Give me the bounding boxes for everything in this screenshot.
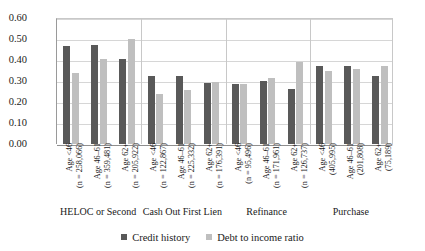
y-axis-tick-2: 0.40 <box>0 55 27 65</box>
x-axis-category-labels: Age <46(n = 258,066)Age 46–61(n = 359,48… <box>56 145 393 205</box>
x-label-count-5: (n = 176,391) <box>215 143 226 203</box>
denial-reasons-bar-chart: Percentage Denied 0.600.500.400.300.200.… <box>0 0 425 251</box>
x-label-count-8: (n = 126,737) <box>300 143 311 203</box>
bar-0-10 <box>344 66 351 144</box>
x-label-count-9: (405,995) <box>328 143 339 203</box>
x-label-age-7: Age 46–61 <box>262 143 273 203</box>
x-axis-group-labels: HELOC or SecondCash Out First LienRefina… <box>56 206 393 222</box>
legend-swatch-icon-0 <box>121 234 127 240</box>
bar-1-9 <box>325 71 332 145</box>
legend-item-1[interactable]: Debt to income ratio <box>206 232 304 243</box>
x-label-count-2: (n = 205,922) <box>131 143 142 203</box>
y-axis-tick-5: 0.10 <box>0 118 27 128</box>
legend-swatch-icon-1 <box>206 234 212 240</box>
x-label-age-6: Age <46 <box>234 143 245 203</box>
bar-0-4 <box>176 76 183 144</box>
group-label-0: HELOC or Second <box>56 206 140 217</box>
x-label-count-0: (n = 258,066) <box>75 143 86 203</box>
bar-0-9 <box>316 66 323 144</box>
bar-series-container <box>57 19 392 144</box>
bar-0-1 <box>91 45 98 144</box>
bar-1-7 <box>268 78 275 144</box>
legend-label-1: Debt to income ratio <box>217 232 304 243</box>
x-label-count-10: (201,808) <box>356 143 367 203</box>
group-label-3: Purchase <box>309 206 393 217</box>
x-label-count-3: (n = 122,867) <box>159 143 170 203</box>
plot-area <box>56 18 393 144</box>
x-label-count-4: (n = 225,332) <box>187 143 198 203</box>
legend-label-0: Credit history <box>132 232 190 243</box>
bar-0-11 <box>372 76 379 144</box>
y-axis-tick-4: 0.20 <box>0 97 27 107</box>
bar-1-1 <box>100 59 107 144</box>
bar-1-0 <box>72 73 79 144</box>
y-axis-tick-3: 0.30 <box>0 76 27 86</box>
chart-legend: Credit historyDebt to income ratio <box>0 229 425 245</box>
x-label-count-7: (n = 171,961) <box>272 143 283 203</box>
bar-0-5 <box>204 83 211 144</box>
bar-0-7 <box>260 81 267 144</box>
bar-1-6 <box>240 84 247 144</box>
bar-1-10 <box>353 69 360 144</box>
bar-1-2 <box>128 39 135 144</box>
bar-1-4 <box>184 90 191 144</box>
y-axis-tick-0: 0.60 <box>0 13 27 23</box>
x-label-count-1: (n = 359,481) <box>103 143 114 203</box>
group-label-1: Cash Out First Lien <box>140 206 224 217</box>
group-label-2: Refinance <box>225 206 309 217</box>
x-label-count-6: (n = 95,496) <box>244 143 255 203</box>
bar-1-3 <box>156 94 163 144</box>
y-axis-tick-6: 0.00 <box>0 139 27 149</box>
bar-1-8 <box>296 62 303 144</box>
x-label-count-11: (75,189) <box>384 143 395 203</box>
bar-0-2 <box>119 59 126 144</box>
bar-1-11 <box>381 66 388 144</box>
bar-1-5 <box>212 82 219 144</box>
bar-0-3 <box>148 76 155 144</box>
bar-0-6 <box>232 84 239 144</box>
y-axis-tick-1: 0.50 <box>0 34 27 44</box>
bar-0-0 <box>63 46 70 144</box>
bar-0-8 <box>288 89 295 144</box>
legend-item-0[interactable]: Credit history <box>121 232 190 243</box>
